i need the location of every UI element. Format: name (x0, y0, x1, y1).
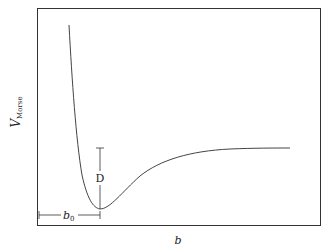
y-axis-label: VMorse (9, 96, 24, 127)
x-axis-label: b (174, 234, 181, 247)
plot-frame (38, 9, 321, 226)
morse-potential-chart: D b0 b VMorse (0, 0, 330, 252)
svg-text:VMorse: VMorse (9, 96, 24, 127)
depth-label: D (96, 172, 105, 185)
